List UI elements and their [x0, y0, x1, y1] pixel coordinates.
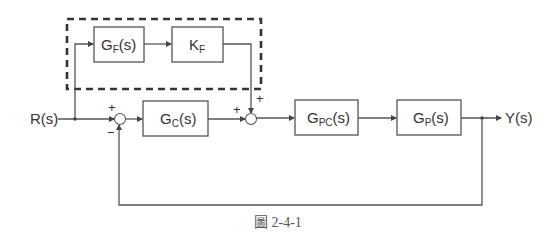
summer2-top-plus-sign: + [256, 91, 264, 106]
wire-branch-to-gf [75, 44, 93, 119]
svg-text:GF(s): GF(s) [101, 36, 136, 55]
summer1-minus-sign: − [107, 125, 115, 140]
summer2-left-plus-sign: + [233, 102, 241, 117]
arrow-head [137, 116, 143, 122]
branch-point-input [73, 117, 77, 121]
block-gc: GC(s) [143, 101, 208, 136]
input-label: R(s) [30, 110, 58, 127]
output-label: Y(s) [505, 109, 533, 126]
summer1-plus-sign: + [108, 100, 116, 115]
block-diagram: GF(s) KF GC(s) GPC(s) GP(s) + − + + R(s)… [0, 0, 558, 236]
arrow-head [289, 115, 295, 121]
figure-caption: 圖 2-4-1 [254, 215, 302, 230]
arrow-head [391, 115, 397, 121]
block-gf: GF(s) [94, 27, 144, 62]
arrow-head [88, 41, 94, 47]
svg-text:GC(s): GC(s) [160, 110, 196, 129]
arrow-head [496, 115, 502, 121]
block-gpc: GPC(s) [295, 100, 358, 135]
arrow-head [166, 41, 172, 47]
block-kf: KF [172, 27, 223, 62]
svg-text:GP(s): GP(s) [413, 109, 449, 128]
summing-junction-1 [115, 114, 126, 125]
summing-junction-2 [246, 114, 257, 125]
block-gp: GP(s) [397, 100, 461, 135]
